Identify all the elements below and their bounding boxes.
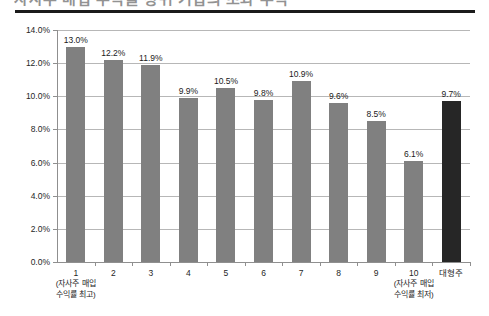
y-axis-tick [53,229,58,230]
x-axis-tick [432,262,433,266]
bar-value-label: 13.0% [64,35,88,45]
x-axis-tick [395,262,396,266]
y-axis-tick-label: 8.0% [31,124,50,134]
bar [442,101,461,262]
bar-value-label: 9.9% [179,86,198,96]
x-axis-category-number: 9 [374,268,379,279]
bar [104,60,123,262]
bar [292,81,311,262]
bar-value-label: 6.1% [404,149,423,159]
y-axis-tick [53,129,58,130]
x-axis-category-number: 8 [336,268,341,279]
bar-value-label: 8.5% [366,109,385,119]
x-axis-tick [282,262,283,266]
x-axis-tick [320,262,321,266]
y-axis-tick [53,63,58,64]
page-title: 자사주 매입 수익률 상위 기업의 초과 수익 [14,0,289,8]
bar [141,65,160,262]
title-divider-rule [15,10,475,13]
y-axis-tick [53,96,58,97]
x-axis-category: 2 [111,268,116,279]
bar-value-label: 9.6% [329,91,348,101]
y-axis-tick-label: 10.0% [26,91,50,101]
clipped-title-strip: 자사주 매입 수익률 상위 기업의 초과 수익 [0,0,489,8]
y-axis-tick-label: 14.0% [26,25,50,35]
bar [179,98,198,262]
y-axis-tick-label: 4.0% [31,191,50,201]
x-axis-category-number: 1 [56,268,96,279]
x-axis-category: 5 [224,268,229,279]
bar [216,88,235,262]
y-axis-tick-label: 0.0% [31,257,50,267]
x-axis-category: 8 [336,268,341,279]
y-axis-tick [53,262,58,263]
x-axis-category-sublabel: 수익률 최저) [394,290,434,301]
y-axis-tick [53,196,58,197]
x-axis-line [57,262,470,263]
x-axis-tick [132,262,133,266]
x-axis-category: 대형주 [439,268,463,279]
bar-value-label: 10.5% [214,76,238,86]
y-axis-tick [53,30,58,31]
x-axis-category-sublabel: (자사주 매입 [56,279,96,290]
y-axis-tick [53,163,58,164]
x-axis-category-number: 4 [186,268,191,279]
bar-value-label: 11.9% [139,53,162,63]
x-axis-category-number: 7 [299,268,304,279]
x-axis-category-number: 10 [394,268,434,279]
plot-area: 0.0%2.0%4.0%6.0%8.0%10.0%12.0%14.0% 13.0… [57,30,470,262]
x-axis-category-number: 6 [261,268,266,279]
bar-value-label: 9.8% [254,88,273,98]
x-axis-tick [170,262,171,266]
y-axis-tick-label: 6.0% [31,158,50,168]
x-axis-category: 3 [148,268,153,279]
bar-chart: 0.0%2.0%4.0%6.0%8.0%10.0%12.0%14.0% 13.0… [0,22,489,316]
bar [254,100,273,262]
x-axis-category-number: 5 [224,268,229,279]
x-axis-category: 10(자사주 매입수익률 최저) [394,268,434,300]
x-axis-tick [207,262,208,266]
bar-value-label: 10.9% [289,69,313,79]
bar [66,47,85,262]
y-axis-tick-label: 12.0% [26,58,50,68]
bar [329,103,348,262]
x-axis-tick [357,262,358,266]
bar [367,121,386,262]
x-axis-tick [95,262,96,266]
bar-value-label: 12.2% [101,48,125,58]
bar-value-label: 9.7% [442,89,461,99]
x-axis-category: 9 [374,268,379,279]
x-axis-category: 4 [186,268,191,279]
x-axis-category: 1(자사주 매입수익률 최고) [56,268,96,300]
x-axis-tick [470,262,471,266]
x-axis-category-number: 2 [111,268,116,279]
x-axis-category-sublabel: (자사주 매입 [394,279,434,290]
y-axis-tick-label: 2.0% [31,224,50,234]
x-axis-category: 6 [261,268,266,279]
x-axis-tick [245,262,246,266]
x-axis-category-number: 대형주 [439,268,463,279]
x-axis-category: 7 [299,268,304,279]
bar [404,161,423,262]
gridline [57,30,470,31]
x-axis-category-sublabel: 수익률 최고) [56,290,96,301]
x-axis-category-number: 3 [148,268,153,279]
